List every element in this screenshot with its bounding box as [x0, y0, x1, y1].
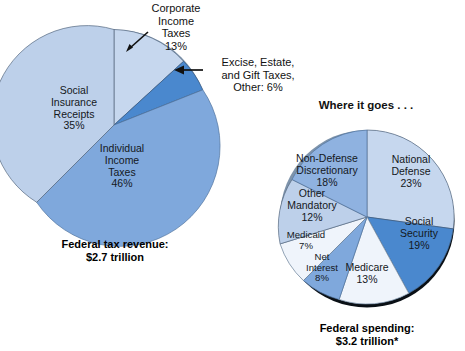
callout-line: Other: 6% — [204, 81, 312, 94]
callout-line: Income — [128, 15, 224, 28]
callout-line: Corporate — [128, 2, 224, 15]
revenue-caption-line1: Federal tax revenue: — [20, 238, 210, 251]
federal-tax-revenue-pie: Social Insurance Receipts 35% Individual… — [14, 25, 214, 225]
spending-caption-line1: Federal spending: — [282, 322, 452, 335]
revenue-caption-line2: $2.7 trillion — [20, 251, 210, 264]
excise-callout-arrow-icon — [174, 63, 204, 77]
spending-caption-line2: $3.2 trillion* — [282, 335, 452, 348]
callout-excise-estate-gift-taxes: Excise, Estate, and Gift Taxes, Other: 6… — [204, 56, 312, 94]
federal-spending-pie: National Defense 23% Social Security 19%… — [276, 126, 458, 308]
revenue-pie-svg — [14, 25, 214, 225]
spending-figure-title: Where it goes . . . — [288, 99, 444, 111]
revenue-caption: Federal tax revenue: $2.7 trillion — [20, 238, 210, 264]
spending-caption: Federal spending: $3.2 trillion* — [282, 322, 452, 348]
figure-canvas: Social Insurance Receipts 35% Individual… — [0, 0, 465, 351]
callout-line: Excise, Estate, — [204, 56, 312, 69]
slice-national-defense — [367, 130, 454, 229]
callout-line: and Gift Taxes, — [204, 69, 312, 82]
corporate-callout-arrow-icon — [126, 30, 152, 52]
spending-pie-svg — [276, 126, 458, 308]
